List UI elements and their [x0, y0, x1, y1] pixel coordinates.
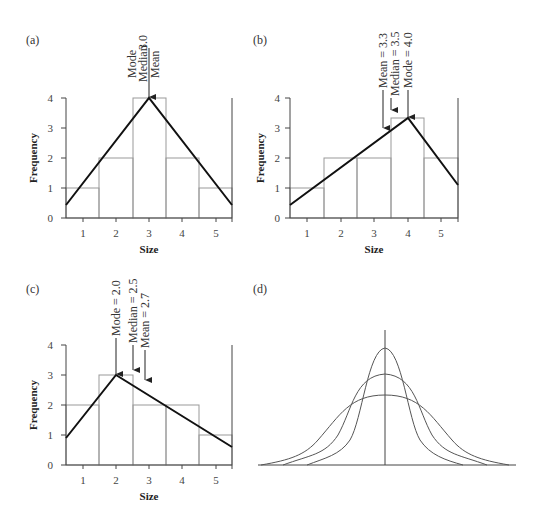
svg-text:1: 1 [48, 182, 54, 194]
frequency-polygon [290, 118, 458, 205]
svg-text:5: 5 [438, 227, 444, 239]
axes [61, 98, 232, 222]
svg-text:0: 0 [275, 212, 281, 224]
annotation-mode: Mode = 4.0 [401, 32, 415, 88]
svg-text:1: 1 [80, 474, 86, 486]
y-axis-title: Frequency [254, 133, 266, 183]
x-axis-title: Size [140, 490, 159, 502]
panel-b: (b) 4 3 2 1 0 [253, 32, 458, 255]
x-axis-title: Size [365, 243, 384, 255]
svg-text:4: 4 [179, 227, 185, 239]
x-ticks: 1 2 3 4 5 [80, 227, 219, 239]
svg-text:3: 3 [146, 474, 152, 486]
svg-text:0: 0 [48, 212, 54, 224]
svg-text:2: 2 [48, 399, 54, 411]
svg-text:5: 5 [213, 474, 219, 486]
bar [99, 158, 133, 218]
bar [166, 405, 199, 465]
svg-text:3: 3 [48, 369, 54, 381]
panel-c: (c) 4 3 2 1 0 [26, 279, 232, 502]
svg-text:4: 4 [405, 227, 411, 239]
svg-text:3: 3 [48, 122, 54, 134]
annotation-mean: Mean = 2.7 [138, 293, 152, 348]
bar [424, 158, 458, 218]
bar [133, 98, 166, 218]
svg-text:0: 0 [48, 459, 54, 471]
y-ticks: 4 3 2 1 0 [275, 92, 281, 224]
figure: (a) 4 3 2 [0, 0, 541, 527]
x-axis-title: Size [140, 243, 159, 255]
svg-text:3: 3 [371, 227, 377, 239]
bar [66, 188, 99, 218]
frequency-polygon [66, 375, 232, 447]
annotation-mean: Mean [148, 51, 162, 78]
svg-text:2: 2 [275, 152, 281, 164]
panel-label: (b) [253, 33, 267, 47]
svg-text:2: 2 [113, 474, 119, 486]
panel-label: (c) [26, 282, 39, 296]
panel-a: (a) 4 3 2 [26, 33, 232, 255]
histogram-bars [66, 375, 232, 465]
y-ticks: 4 3 2 1 0 [48, 92, 54, 224]
panel-d: (d) [253, 282, 516, 465]
svg-text:4: 4 [48, 92, 54, 104]
annotation-mode: Mode = 2.0 [109, 280, 123, 336]
y-axis-title: Frequency [27, 380, 39, 430]
svg-text:4: 4 [275, 92, 281, 104]
svg-text:2: 2 [48, 152, 54, 164]
svg-text:1: 1 [48, 429, 54, 441]
annotation-value: 3.0 [136, 35, 150, 50]
x-ticks: 1 2 3 4 5 [80, 474, 219, 486]
svg-text:2: 2 [113, 227, 119, 239]
bar [133, 405, 166, 465]
annotation-median: Median = 3.5 [388, 32, 402, 96]
bar [199, 188, 232, 218]
y-ticks: 4 3 2 1 0 [48, 339, 54, 471]
frequency-polygon [66, 98, 232, 205]
bar [66, 405, 99, 465]
svg-text:4: 4 [48, 339, 54, 351]
bar [357, 158, 391, 218]
panel-label: (a) [26, 33, 39, 47]
bar [199, 435, 232, 465]
panel-label: (d) [253, 282, 267, 296]
svg-text:1: 1 [304, 227, 310, 239]
y-axis-title: Frequency [27, 133, 39, 183]
axes [285, 98, 458, 222]
svg-text:1: 1 [275, 182, 281, 194]
svg-text:2: 2 [338, 227, 344, 239]
axes [61, 345, 232, 469]
bar [166, 158, 199, 218]
histogram-bars [66, 98, 232, 218]
svg-text:5: 5 [213, 227, 219, 239]
x-ticks: 1 2 3 4 5 [304, 227, 444, 239]
svg-text:3: 3 [146, 227, 152, 239]
svg-text:4: 4 [179, 474, 185, 486]
svg-text:3: 3 [275, 122, 281, 134]
svg-text:1: 1 [80, 227, 86, 239]
histogram-bars [290, 118, 458, 218]
